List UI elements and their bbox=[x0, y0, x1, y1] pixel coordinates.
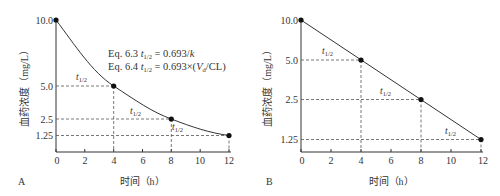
x-tick-labels: 0 2 4 6 8 10 12 bbox=[55, 155, 235, 166]
equation-6-4: Eq. 6.4 t1/2 = 0.693×(Vd/CL) bbox=[108, 61, 226, 73]
svg-text:8: 8 bbox=[419, 155, 424, 166]
half-life-label: t1/2 bbox=[380, 86, 391, 97]
figure: 0 2 4 6 8 10 12 10.0 5.0 2.5 1.25 t1/2 t… bbox=[0, 0, 500, 196]
panel-label-a: A bbox=[18, 176, 26, 187]
svg-text:1.25: 1.25 bbox=[281, 134, 299, 145]
svg-text:12: 12 bbox=[478, 155, 488, 166]
svg-text:0: 0 bbox=[55, 155, 60, 166]
svg-text:10: 10 bbox=[195, 155, 205, 166]
svg-text:5.0: 5.0 bbox=[286, 55, 299, 66]
svg-text:2.5: 2.5 bbox=[286, 94, 299, 105]
panel-label-b: B bbox=[266, 176, 273, 187]
guide-lines bbox=[301, 60, 481, 152]
svg-text:12: 12 bbox=[224, 155, 234, 166]
equation-6-3: Eq. 6.3 t1/2 = 0.693/k bbox=[108, 48, 195, 60]
svg-text:6: 6 bbox=[141, 155, 146, 166]
half-life-label: t1/2 bbox=[76, 72, 87, 83]
svg-text:4: 4 bbox=[359, 155, 364, 166]
panel-b: 0 2 4 6 8 10 12 10.0 5.0 2.5 1.25 t1/2 t… bbox=[261, 15, 488, 188]
svg-text:8: 8 bbox=[169, 155, 174, 166]
svg-text:10: 10 bbox=[446, 155, 456, 166]
decay-line bbox=[301, 20, 481, 140]
svg-text:10.0: 10.0 bbox=[281, 15, 299, 26]
x-axis-label: 时间（h） bbox=[120, 175, 165, 187]
svg-text:4: 4 bbox=[112, 155, 117, 166]
x-tick-labels: 0 2 4 6 8 10 12 bbox=[300, 155, 489, 166]
svg-text:6: 6 bbox=[389, 155, 394, 166]
y-axis-label: 血药浓度（mg/L） bbox=[261, 45, 273, 127]
x-axis-label: 时间（h） bbox=[369, 175, 414, 187]
svg-text:2: 2 bbox=[83, 155, 88, 166]
half-life-label: t1/2 bbox=[130, 106, 141, 117]
svg-text:10.0: 10.0 bbox=[36, 15, 54, 26]
half-life-label: t1/2 bbox=[322, 46, 333, 57]
half-life-label: t1/2 bbox=[172, 122, 183, 133]
panel-a: 0 2 4 6 8 10 12 10.0 5.0 2.5 1.25 t1/2 t… bbox=[18, 15, 234, 188]
svg-text:5.0: 5.0 bbox=[41, 81, 54, 92]
svg-text:2.5: 2.5 bbox=[41, 114, 54, 125]
y-axis-label: 血药浓度（mg/L） bbox=[18, 45, 30, 127]
y-tick-labels: 10.0 5.0 2.5 1.25 bbox=[281, 15, 299, 146]
svg-text:0: 0 bbox=[300, 155, 305, 166]
svg-text:2: 2 bbox=[329, 155, 334, 166]
guide-lines bbox=[56, 86, 229, 152]
half-life-label: t1/2 bbox=[445, 126, 456, 137]
svg-text:1.25: 1.25 bbox=[36, 130, 54, 141]
y-tick-labels: 10.0 5.0 2.5 1.25 bbox=[36, 15, 54, 142]
